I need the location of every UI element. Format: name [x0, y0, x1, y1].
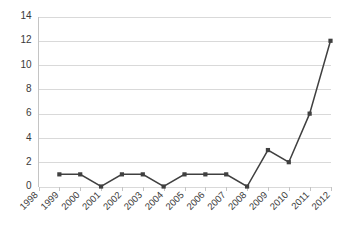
series-line-path: [59, 41, 330, 187]
data-point-2000-1: [78, 172, 82, 176]
y-axis-tick-labels: 02468101214: [20, 10, 32, 191]
x-tick-label-2009: 2009: [247, 189, 270, 212]
data-series: [59, 41, 330, 187]
x-axis-tick-labels: 1998199920002001200220032004200520062007…: [17, 189, 332, 212]
x-tick-label-2012: 2012: [309, 189, 332, 212]
data-point-2003-1: [141, 172, 145, 176]
x-tick-label-2010: 2010: [267, 189, 290, 212]
y-tick-label-12: 12: [20, 34, 32, 45]
x-tick-label-2003: 2003: [121, 189, 144, 212]
data-point-2005-1: [182, 172, 186, 176]
y-tick-label-14: 14: [20, 10, 32, 21]
x-tick-label-2007: 2007: [205, 189, 228, 212]
x-tick-label-2008: 2008: [226, 189, 249, 212]
x-tick-label-2004: 2004: [142, 189, 165, 212]
data-point-2012-12: [328, 39, 332, 43]
y-tick-label-8: 8: [26, 83, 32, 94]
x-tick-label-1998: 1998: [17, 189, 40, 212]
x-tick-label-2006: 2006: [184, 189, 207, 212]
line-chart: 02468101214 1998199920002001200220032004…: [0, 0, 340, 238]
data-point-markers: [57, 39, 332, 189]
x-tick-label-2001: 2001: [80, 189, 103, 212]
chart-canvas: 02468101214 1998199920002001200220032004…: [0, 0, 340, 238]
data-point-2007-1: [224, 172, 228, 176]
y-tick-label-2: 2: [26, 156, 32, 167]
data-point-2002-1: [120, 172, 124, 176]
data-point-2006-1: [203, 172, 207, 176]
data-point-2010-2: [287, 160, 291, 164]
data-point-2004-0: [162, 184, 166, 188]
y-tick-label-10: 10: [20, 59, 32, 70]
data-point-2009-3: [266, 148, 270, 152]
x-tick-label-1999: 1999: [38, 189, 61, 212]
x-tick-label-2002: 2002: [101, 189, 124, 212]
x-tick-label-2005: 2005: [163, 189, 186, 212]
y-tick-label-6: 6: [26, 107, 32, 118]
x-tick-label-2011: 2011: [289, 189, 311, 211]
data-point-2011-6: [308, 112, 312, 116]
data-point-2008-0: [245, 184, 249, 188]
data-point-2001-0: [99, 184, 103, 188]
y-tick-label-4: 4: [26, 132, 32, 143]
data-point-1999-1: [57, 172, 61, 176]
x-tick-label-2000: 2000: [59, 189, 82, 212]
